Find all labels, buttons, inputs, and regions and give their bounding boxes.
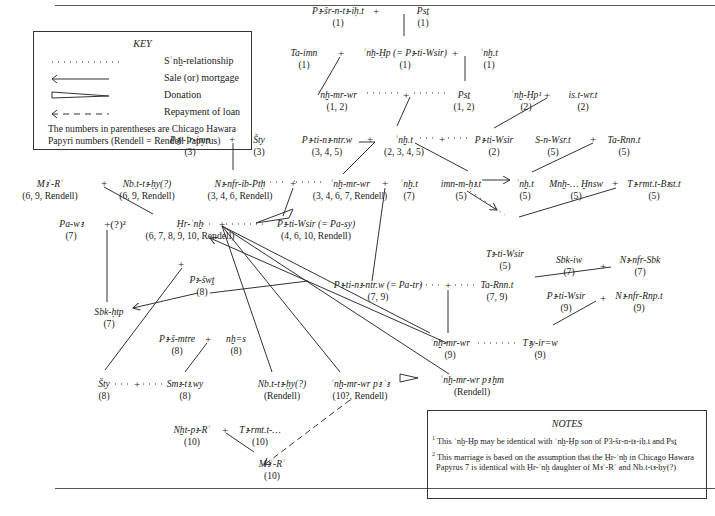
person-anhmrwr12: ʿnḫ-mr-wr(1, 2) [317, 89, 357, 113]
person-snwsrt: S-n-Wsr.t(5) [535, 134, 570, 158]
person-isutwrt: is.t-wr.t(2) [569, 89, 598, 113]
person-mnhhnsw: Mnḫ-… Ḫnsw(5) [549, 178, 603, 202]
note-1: 1 This ʿnḫ-Ḥp may be identical with ʿnḫ-… [428, 433, 706, 449]
marriage-plus: + [382, 177, 388, 189]
person-patinintrw345: Pꜣ-ti-nꜣ-ntr.w(3, 4, 5) [302, 134, 353, 158]
notes-box: NOTES 1 This ʿnḫ-Ḥp may be identical wit… [427, 410, 707, 499]
marriage-plus: + [445, 279, 451, 291]
person-anhmrwr9: ʿnḫ-mr-wr(9) [430, 337, 470, 361]
marriage-plus: + [439, 133, 445, 145]
person-patiwsirpasy: Pꜣ-ti-Wsir (= Pa-sy)(4, 6, 10, Rendell) [277, 218, 355, 242]
person-taimn: Ta-imn(1) [291, 47, 318, 71]
notes-title: NOTES [428, 419, 706, 430]
person-mare10: Mꜣʿ-Rʿ(10) [259, 458, 285, 482]
marriage-plus: + [178, 258, 184, 270]
person-sbkiw: Sbk-iw(7) [556, 254, 582, 278]
person-tarmtt: Tꜣ-rmt.t-…(10) [239, 424, 281, 448]
person-anht7: ʿnḫ.t(7) [400, 178, 418, 202]
person-anhmrwrpa: ʿnḫ-mr-wr pꜣ ʿꜣ(10?, Rendell) [331, 378, 390, 402]
person-tayirsw: Tꜣy-ir=w(9) [522, 337, 557, 361]
person-anhhp1: ʿnḫ-Ḥp (= Pꜣ-ti-Wsir)(1) [363, 47, 447, 71]
marriage-plus: + [403, 89, 409, 101]
person-pst12: Psṯ(1, 2) [454, 89, 475, 113]
person-tarnnt79: Ta-Rnn.t(7, 9) [481, 279, 514, 303]
person-nbttahy1: Nb.t-tꜣ-ḥy(?)(6, 9, Rendell) [119, 178, 174, 202]
person-imnmhst: imn-m-ḥꜣ.t(5) [441, 178, 482, 202]
marriage-plus: + [600, 292, 606, 304]
person-patiwsir9: Pꜣ-ti-Wsir(9) [547, 290, 586, 314]
person-pashmtre: Pꜣ-š-mtre(8) [159, 333, 195, 357]
person-pashr: Pꜣ-šr-n-tꜣ-iḥ.t(1) [312, 5, 364, 29]
person-anhmrwr3467: ʿnḫ-mr-wr(3, 4, 6, 7, Rendell) [313, 178, 388, 202]
person-sbkhtp: Sbk-ḥtp(7) [94, 306, 123, 330]
marriage-plus: + [590, 133, 596, 145]
marriage-plus: + [222, 424, 228, 436]
person-nhes: nḫ=s(8) [226, 333, 246, 357]
person-nhtpare: Nḫt-pꜣ-Rʿ(10) [173, 424, 210, 448]
note-2: 2 This marriage is based on the assumpti… [428, 449, 706, 476]
marriage-plus-uncertain: +(?)² [104, 218, 126, 230]
person-smatawy: Smꜣ-tꜣ.wy(8) [167, 378, 204, 402]
person-tarmtbist: Tꜣ-rmt.t-Bꜣst.t(5) [627, 178, 680, 202]
marriage-plus: + [373, 5, 379, 17]
person-anht1: ʿnḫ.t(1) [480, 47, 498, 71]
marriage-plus: + [229, 133, 235, 145]
person-nbttahyr: Nb.t-tꜣ-ḥy(?)(Rendell) [258, 378, 307, 402]
person-mare1: Mꜣʿ-Rʿ(6, 9, Rendell) [22, 178, 77, 202]
person-nefrsbk: Nꜣ-nfr-Sbk(7) [620, 254, 661, 278]
person-pawt: Pa-wꜣ(7) [59, 218, 82, 242]
marriage-plus: + [544, 89, 550, 101]
person-tatiwsir5: Tꜣ-ti-Wsir(5) [486, 248, 524, 272]
person-anhmrwrhm: ʿnḫ-mr-wr pꜣ ḫm(Rendell) [440, 374, 504, 398]
person-pashwt: Pꜣ-šwṱ(8) [190, 274, 215, 298]
marriage-plus: + [290, 177, 296, 189]
person-sty8: Šty(8) [98, 378, 110, 402]
person-patiwsir2: Pꜣ-ti-Wsir(2) [475, 134, 514, 158]
person-nefribpth: Nꜣ-nfr-ib-Ptḥ(3, 4, 6, Rendell) [207, 178, 272, 202]
person-piyarimn: Pꜣy-ʿr-imn(3) [170, 134, 211, 158]
person-patinintrwpatr: Pꜣ-ti-nꜣ-ntr.w (= Pa-tr)(7, 9) [334, 279, 422, 303]
marriage-plus: + [612, 177, 618, 189]
person-anht5: ʿnḫ.t(5) [516, 178, 534, 202]
person-tarnnt5: Ta-Rnn.t(5) [608, 134, 641, 158]
marriage-plus: + [219, 218, 225, 230]
marriage-plus: + [205, 333, 211, 345]
marriage-plus: + [338, 47, 344, 59]
person-nefrrnpt: Nꜣ-nfr-Rnp.t(9) [615, 290, 662, 314]
marriage-plus: + [367, 133, 373, 145]
marriage-plus: + [600, 260, 606, 272]
person-pst1: Psṯ(1) [417, 5, 429, 29]
marriage-plus: + [134, 378, 140, 390]
marriage-plus: + [101, 177, 107, 189]
person-sty3: Šty(3) [253, 134, 265, 158]
person-anhhp2: ʿnḫ-Ḥp¹(2) [511, 89, 542, 113]
person-anht2345: ʿnḫ.t(2, 3, 4, 5) [384, 134, 424, 158]
marriage-plus: + [452, 47, 458, 59]
